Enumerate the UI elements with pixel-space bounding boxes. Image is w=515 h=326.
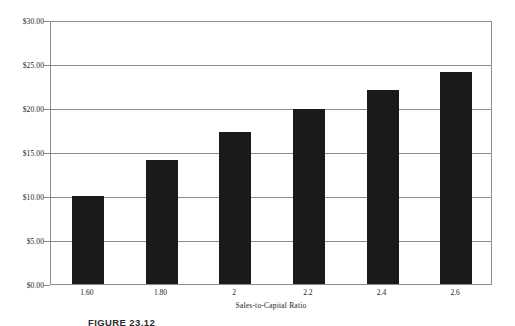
x-axis-tick-label: 2.6 [430, 288, 480, 297]
y-axis-tick-label: $10.00 [0, 193, 44, 202]
x-axis-tick-label: 2 [209, 288, 259, 297]
bar [293, 109, 325, 284]
bar [146, 160, 178, 284]
bar [219, 132, 251, 284]
x-axis-title: Sales-to-Capital Ratio [50, 301, 492, 310]
bar [367, 90, 399, 284]
x-axis-tick-label: 2.4 [357, 288, 407, 297]
gridline [51, 65, 491, 66]
x-axis-tick-label: 1.80 [136, 288, 186, 297]
bar [440, 72, 472, 284]
y-axis-tick-label: $0.00 [0, 281, 44, 290]
figure-container: $30.00$25.00$20.00$15.00$10.00$5.00$0.00… [0, 0, 515, 326]
figure-caption: FIGURE 23.12 [88, 317, 155, 326]
gridline [51, 109, 491, 110]
x-axis: 1.601.8022.22.42.6 [50, 288, 492, 300]
y-axis-tick-mark [44, 285, 50, 286]
y-axis-tick-label: $30.00 [0, 17, 44, 26]
y-axis-tick-label: $5.00 [0, 237, 44, 246]
x-axis-tick-label: 2.2 [283, 288, 333, 297]
y-axis-title: Value per Share [0, 155, 55, 169]
gridline [51, 241, 491, 242]
y-axis-tick-label: $25.00 [0, 61, 44, 70]
bar [72, 196, 104, 284]
y-axis-tick-label: $20.00 [0, 105, 44, 114]
gridline [51, 153, 491, 154]
plot-area [50, 21, 492, 285]
gridline [51, 197, 491, 198]
x-axis-tick-label: 1.60 [62, 288, 112, 297]
